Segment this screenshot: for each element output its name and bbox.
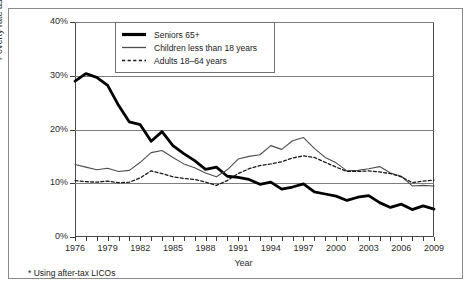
legend-swatch-thin-solid-icon <box>121 42 147 53</box>
y-tick-mark <box>70 22 75 23</box>
y-tick-label: 10% <box>22 178 68 187</box>
x-tick-mark <box>75 237 76 241</box>
y-tick-label: 40% <box>22 17 68 26</box>
gridline-30% <box>75 76 434 77</box>
x-tick-label: 2000 <box>320 243 352 253</box>
x-axis-label: Year <box>0 258 472 268</box>
x-tick-label: 1994 <box>255 243 287 253</box>
x-tick-mark <box>227 237 228 241</box>
x-tick-label: 1991 <box>222 243 254 253</box>
x-tick-label: 1988 <box>190 243 222 253</box>
x-tick-label: 2006 <box>385 243 417 253</box>
x-tick-mark <box>336 237 337 241</box>
y-tick-mark <box>70 76 75 77</box>
x-tick-mark <box>238 237 239 241</box>
x-tick-mark <box>97 237 98 241</box>
x-tick-mark <box>151 237 152 241</box>
x-tick-mark <box>173 237 174 241</box>
poverty-rate-figure: Poverty rate as a percentage* 0%10%20%30… <box>0 0 472 294</box>
legend-label-adults: Adults 18–64 years <box>154 56 227 66</box>
x-tick-mark <box>271 237 272 241</box>
x-tick-mark <box>195 237 196 241</box>
x-tick-mark <box>434 237 435 241</box>
x-tick-label: 1979 <box>92 243 124 253</box>
x-tick-mark <box>216 237 217 241</box>
x-tick-mark <box>423 237 424 241</box>
x-tick-label: 2003 <box>353 243 385 253</box>
x-tick-mark <box>412 237 413 241</box>
x-tick-mark <box>162 237 163 241</box>
x-tick-mark <box>249 237 250 241</box>
x-tick-mark <box>260 237 261 241</box>
legend-item-seniors: Seniors 65+ <box>121 28 268 41</box>
x-tick-label: 1985 <box>157 243 189 253</box>
legend-label-seniors: Seniors 65+ <box>154 30 200 40</box>
x-tick-label: 2009 <box>418 243 450 253</box>
figure-footnote: * Using after-tax LICOs <box>28 268 115 278</box>
x-tick-mark <box>303 237 304 241</box>
x-tick-label: 1997 <box>287 243 319 253</box>
y-tick-label: 20% <box>22 125 68 134</box>
x-tick-mark <box>86 237 87 241</box>
y-tick-label: 0% <box>22 232 68 241</box>
y-tick-label: 30% <box>22 71 68 80</box>
x-tick-mark <box>314 237 315 241</box>
x-tick-mark <box>108 237 109 241</box>
x-tick-mark <box>380 237 381 241</box>
x-tick-mark <box>390 237 391 241</box>
x-tick-mark <box>140 237 141 241</box>
legend-swatch-dashed-icon <box>121 55 147 66</box>
chart-legend: Seniors 65+ Children less than 18 years … <box>115 22 275 73</box>
y-tick-mark <box>70 183 75 184</box>
x-tick-mark <box>325 237 326 241</box>
gridline-10% <box>75 183 434 184</box>
x-tick-label: 1982 <box>124 243 156 253</box>
x-tick-mark <box>347 237 348 241</box>
x-axis-label-text: Year <box>234 258 252 268</box>
x-tick-mark <box>206 237 207 241</box>
legend-swatch-thick-solid-icon <box>121 29 147 40</box>
x-tick-mark <box>282 237 283 241</box>
x-tick-mark <box>401 237 402 241</box>
y-tick-mark <box>70 130 75 131</box>
y-axis-label: Poverty rate as a percentage* <box>0 0 4 60</box>
legend-label-children: Children less than 18 years <box>154 43 257 53</box>
x-tick-label: 1976 <box>59 243 91 253</box>
x-tick-mark <box>184 237 185 241</box>
x-tick-mark <box>119 237 120 241</box>
legend-item-adults: Adults 18–64 years <box>121 54 268 67</box>
x-tick-mark <box>358 237 359 241</box>
x-tick-mark <box>369 237 370 241</box>
gridline-20% <box>75 130 434 131</box>
x-tick-mark <box>293 237 294 241</box>
x-tick-mark <box>129 237 130 241</box>
legend-item-children: Children less than 18 years <box>121 41 268 54</box>
